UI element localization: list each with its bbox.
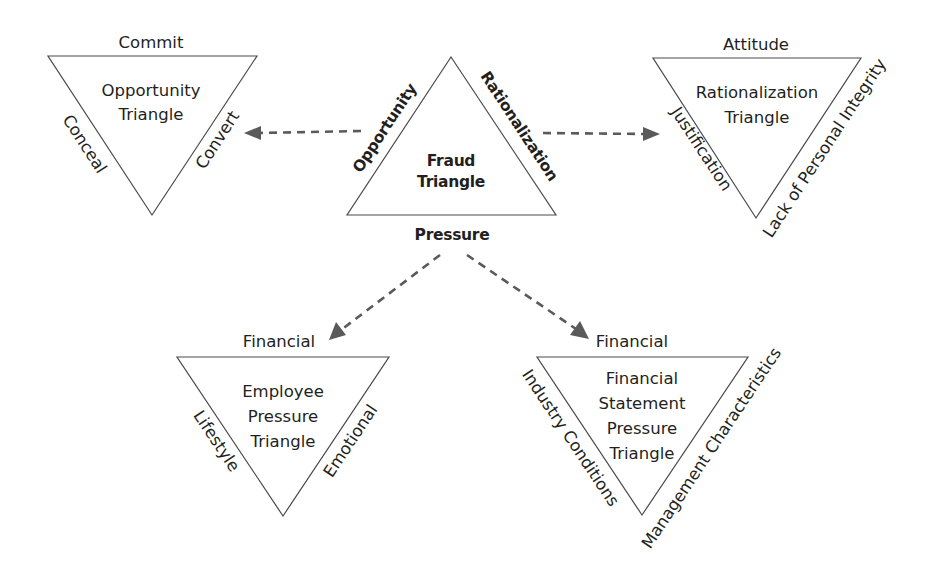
fraud-side-pressure: Pressure [415,226,490,244]
opportunity-top-commit: Commit [119,33,184,52]
employee-title-line1: Employee [242,382,324,401]
rationalization-triangle: Attitude Rationalization Triangle Justif… [653,35,890,241]
financial-statement-title-line4: Triangle [609,444,675,463]
employee-top-financial: Financial [243,332,315,351]
arrow-to-opportunity-triangle [244,126,361,140]
financial-statement-title-line2: Statement [599,394,686,413]
fraud-triangle: Fraud Triangle Opportunity Rationalizati… [347,57,562,244]
opportunity-triangle: Commit Opportunity Triangle Conceal Conv… [48,33,257,215]
rationalization-title-line2: Triangle [724,108,790,127]
financial-statement-title-line1: Financial [606,369,678,388]
arrow-to-financial-statement-triangle [467,255,589,339]
opportunity-title-line2: Triangle [118,105,184,124]
rationalization-title-line1: Rationalization [696,83,818,102]
fraud-triangle-diagram: Fraud Triangle Opportunity Rationalizati… [0,0,948,570]
rationalization-top-attitude: Attitude [723,35,789,54]
arrow-to-rationalization-triangle [543,127,660,141]
financial-statement-title-line3: Pressure [607,419,677,438]
employee-title-line3: Triangle [250,432,316,451]
fraud-triangle-title-line1: Fraud [427,152,475,170]
financial-statement-pressure-triangle: Financial Financial Statement Pressure T… [518,332,785,552]
financial-statement-top-financial: Financial [596,332,668,351]
arrow-to-employee-pressure-triangle [329,255,440,340]
opportunity-title-line1: Opportunity [101,81,200,100]
employee-pressure-triangle: Financial Employee Pressure Triangle Lif… [177,332,389,516]
employee-title-line2: Pressure [248,407,318,426]
fraud-triangle-title-line2: Triangle [417,173,485,191]
